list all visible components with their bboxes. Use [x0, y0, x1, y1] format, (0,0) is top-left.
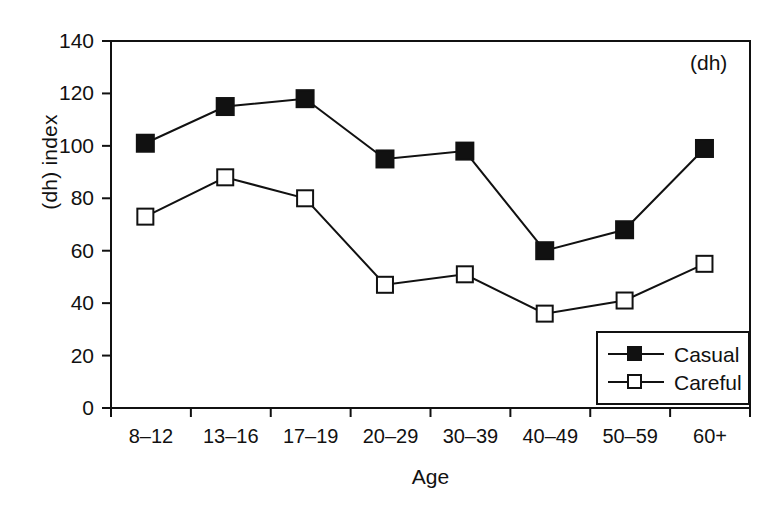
y-tick-label: 0 — [24, 397, 94, 418]
data-series-group — [137, 90, 713, 321]
x-tick-label: 30–39 — [431, 426, 511, 446]
chart-legend: Casual Careful — [596, 331, 750, 405]
x-tick-label: 60+ — [670, 426, 750, 446]
x-tick-label: 17–19 — [271, 426, 351, 446]
x-tick-label: 50–59 — [590, 426, 670, 446]
x-tick-label: 20–29 — [351, 426, 431, 446]
data-point-careful — [696, 256, 712, 272]
legend-label-careful: Careful — [674, 372, 742, 393]
data-point-careful — [457, 266, 473, 282]
data-point-casual — [217, 98, 234, 115]
legend-item-casual: Casual — [608, 340, 734, 368]
y-tick-label: 60 — [24, 240, 94, 261]
data-point-casual — [297, 90, 314, 107]
data-point-careful — [537, 306, 553, 322]
y-tick-label: 40 — [24, 292, 94, 313]
data-point-careful — [377, 277, 393, 293]
y-axis-ticks — [102, 41, 111, 408]
x-tick-label: 13–16 — [191, 426, 271, 446]
data-point-casual — [137, 135, 154, 152]
data-point-casual — [696, 140, 713, 157]
data-point-casual — [616, 221, 633, 238]
y-tick-label: 120 — [24, 82, 94, 103]
data-point-careful — [297, 190, 313, 206]
x-tick-label: 8–12 — [111, 426, 191, 446]
y-tick-label: 20 — [24, 345, 94, 366]
data-point-casual — [536, 242, 553, 259]
data-point-casual — [456, 143, 473, 160]
legend-label-casual: Casual — [674, 344, 739, 365]
legend-item-careful: Careful — [608, 368, 734, 396]
data-point-careful — [617, 293, 633, 309]
y-tick-label: 80 — [24, 187, 94, 208]
legend-marker-filled-square-icon — [608, 344, 664, 364]
y-tick-label: 140 — [24, 30, 94, 51]
chart-figure: (dh) index Age (dh) 020406080100120140 8… — [0, 0, 780, 506]
x-tick-label: 40–49 — [510, 426, 590, 446]
data-point-casual — [376, 150, 393, 167]
legend-marker-open-square-icon — [608, 372, 664, 392]
data-point-careful — [137, 209, 153, 225]
y-tick-label: 100 — [24, 135, 94, 156]
x-axis-ticks — [111, 408, 750, 417]
data-point-careful — [217, 169, 233, 185]
